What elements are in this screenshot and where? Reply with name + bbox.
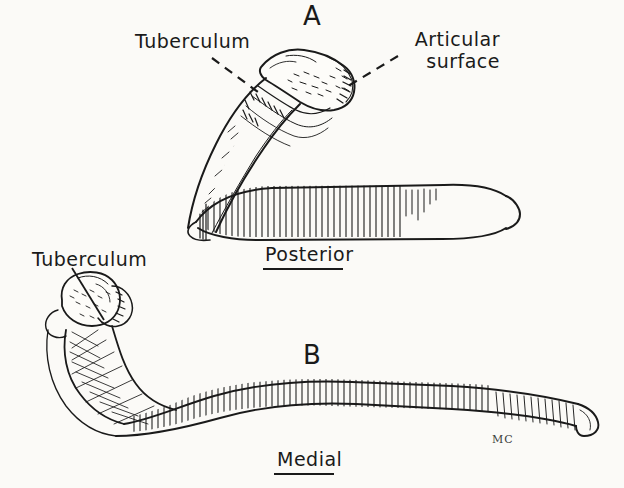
figure-b-neck [47,326,176,436]
callout-label-tuberculum-b: Tuberculum [32,249,147,270]
view-label-medial-underline [274,473,334,475]
callout-label-tuberculum-a: Tuberculum [135,31,250,52]
callout-label-articular-line2: surface [380,51,500,72]
panel-letter-a: A [303,2,321,31]
figure-a-shaft [188,185,520,244]
callout-leader-tuberculum-a [212,58,258,92]
figure-b-bone [46,272,599,442]
figure-b-shaft [116,378,598,442]
figure-a-articular-head [260,50,355,111]
view-label-medial: Medial [277,449,342,470]
panel-letter-b: B [303,341,321,370]
figure-a-bone [188,50,520,244]
callout-label-articular-line1: Articular [380,29,500,50]
figure-b-head [46,272,133,338]
anatomical-figure: A Tuberculum Articular surface Posterior… [0,0,624,488]
artist-signature: MC [492,434,514,446]
view-label-posterior: Posterior [265,244,353,265]
view-label-posterior-underline [263,268,343,270]
